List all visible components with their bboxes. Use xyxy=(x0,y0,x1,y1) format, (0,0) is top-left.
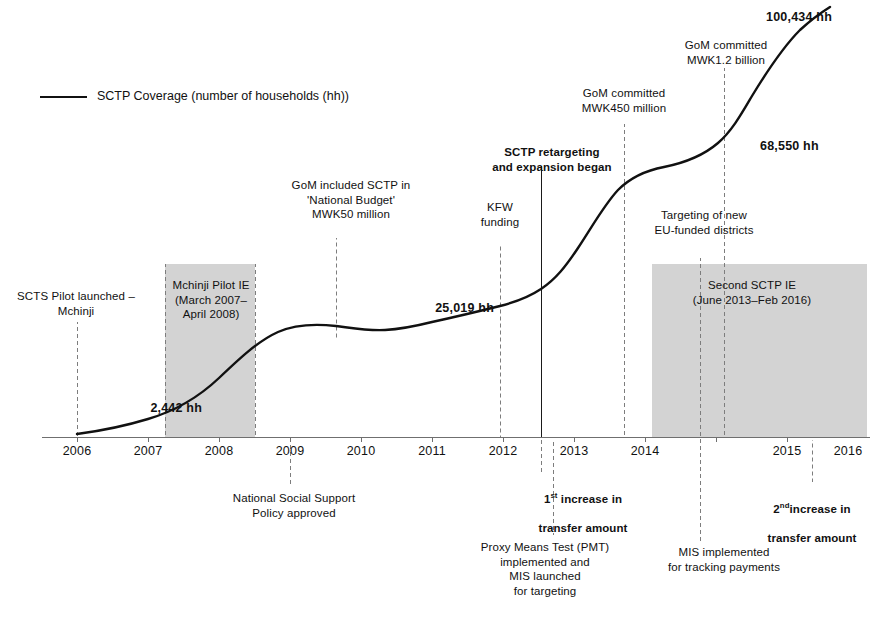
label-gom-national-budget: GoM included SCTP in 'National Budget' M… xyxy=(271,178,431,222)
x-axis-tick-label-2010: 2010 xyxy=(347,444,376,458)
x-axis-tick-label-2014: 2014 xyxy=(631,444,660,458)
first-increase-line2: transfer amount xyxy=(538,522,627,534)
label-gom-mwk12billion: GoM committed MWK1.2 billion xyxy=(651,38,801,67)
second-increase-line2: transfer amount xyxy=(767,532,856,544)
x-axis-tick xyxy=(787,437,788,442)
callout-2442-hh: 2,442 hh xyxy=(150,401,202,415)
event-line-gom-national-budget xyxy=(336,238,337,338)
x-axis-tick xyxy=(432,437,433,442)
event-line-gom-mwk12billion xyxy=(724,68,725,437)
x-axis-tick-label-2009: 2009 xyxy=(276,444,305,458)
event-line-second-increase xyxy=(812,440,813,482)
chart-canvas: 2006 2007 2008 2009 2010 2011 2012 2013 … xyxy=(0,0,884,622)
legend-line-swatch xyxy=(40,96,87,98)
x-axis-tick-label-2007: 2007 xyxy=(134,444,163,458)
second-increase-line1: 2ndincrease in xyxy=(773,503,850,515)
callout-100434-hh: 100,434 hh xyxy=(766,10,832,24)
x-axis-tick xyxy=(574,437,575,442)
x-axis-line xyxy=(42,437,870,438)
label-mis-tracking-payments: MIS implemented for tracking payments xyxy=(639,545,809,574)
x-axis-tick-label-2016: 2016 xyxy=(834,444,863,458)
x-axis-tick xyxy=(361,437,362,442)
label-targeting-eu-districts: Targeting of new EU-funded districts xyxy=(624,208,784,237)
label-kfw-funding: KFW funding xyxy=(455,200,545,229)
first-increase-line1: 1st increase in xyxy=(544,493,622,505)
x-axis-tick xyxy=(77,437,78,442)
event-line-first-increase xyxy=(541,440,542,475)
label-second-sctp-ie: Second SCTP IE (June 2013–Feb 2016) xyxy=(657,278,847,307)
x-axis-tick-label-2011: 2011 xyxy=(418,444,446,458)
label-gom-mwk450: GoM committed MWK450 million xyxy=(549,86,699,115)
callout-68550-hh: 68,550 hh xyxy=(760,139,819,153)
callout-25019-hh: 25,019 hh xyxy=(435,301,494,315)
x-axis-tick xyxy=(716,437,717,442)
x-axis-tick-label-2012: 2012 xyxy=(489,444,518,458)
x-axis-tick xyxy=(148,437,149,442)
x-axis-tick xyxy=(503,437,504,442)
legend-label-sctp-coverage: SCTP Coverage (number of households (hh)… xyxy=(97,89,349,103)
label-national-social-support-policy: National Social Support Policy approved xyxy=(204,491,384,520)
label-proxy-means-test: Proxy Means Test (PMT) implemented and M… xyxy=(455,540,635,598)
x-axis-tick xyxy=(290,437,291,442)
x-axis-tick-label-2008: 2008 xyxy=(205,444,234,458)
x-axis-tick-label-2013: 2013 xyxy=(560,444,589,458)
x-axis-tick xyxy=(219,437,220,442)
x-axis-tick-label-2006: 2006 xyxy=(63,444,92,458)
event-line-scts-pilot-launched xyxy=(77,322,78,437)
x-axis-tick xyxy=(645,437,646,442)
label-first-increase: 1st increase in transfer amount xyxy=(508,477,658,535)
label-second-increase: 2ndincrease in transfer amount xyxy=(737,487,884,545)
label-sctp-retargeting: SCTP retargeting and expansion began xyxy=(472,145,632,174)
event-line-kfw-funding xyxy=(500,245,501,437)
label-mchinji-pilot-ie: Mchinji Pilot IE (March 2007– April 2008… xyxy=(159,278,263,322)
label-scts-pilot-launched: SCTS Pilot launched – Mchinji xyxy=(0,289,152,318)
x-axis-tick-label-2015: 2015 xyxy=(773,444,802,458)
